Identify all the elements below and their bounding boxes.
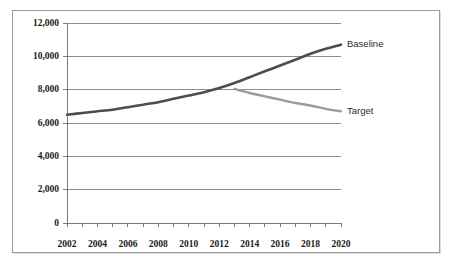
chart-figure: 02,0004,0006,0008,00010,00012,000 200220… xyxy=(0,0,454,273)
x-axis-label-2012: 2012 xyxy=(210,239,229,249)
series-label-baseline: Baseline xyxy=(347,38,383,49)
y-axis-label-8000: 8,000 xyxy=(38,84,60,94)
y-axis-tick-labels-group: 02,0004,0006,0008,00010,00012,000 xyxy=(33,18,59,228)
series-label-target: Target xyxy=(347,105,374,116)
x-axis-label-2006: 2006 xyxy=(118,239,137,249)
x-axis-label-2002: 2002 xyxy=(58,239,77,249)
line-chart-canvas: 02,0004,0006,0008,00010,00012,000 200220… xyxy=(13,11,439,252)
series-lines-group xyxy=(67,45,341,115)
x-axis-label-2004: 2004 xyxy=(88,239,107,249)
series-label-annotations-group: BaselineTarget xyxy=(347,38,383,116)
x-axis-label-2014: 2014 xyxy=(240,239,259,249)
chart-frame: 02,0004,0006,0008,00010,00012,000 200220… xyxy=(12,10,440,253)
y-axis-label-4000: 4,000 xyxy=(38,151,60,161)
x-axis-label-2008: 2008 xyxy=(149,239,168,249)
y-axis-label-12000: 12,000 xyxy=(33,18,59,28)
y-axis-label-0: 0 xyxy=(54,218,59,228)
y-axis-label-6000: 6,000 xyxy=(38,118,60,128)
y-axis-label-2000: 2,000 xyxy=(38,184,60,194)
x-axis-label-2020: 2020 xyxy=(332,239,351,249)
x-axis-label-2010: 2010 xyxy=(179,239,198,249)
x-axis-label-2016: 2016 xyxy=(271,239,290,249)
x-tick-marks-group xyxy=(63,23,341,227)
x-axis-tick-labels-group: 2002200420062008201020122014201620182020 xyxy=(58,239,351,249)
y-axis-label-10000: 10,000 xyxy=(33,51,59,61)
gridlines-group xyxy=(67,23,341,223)
series-line-target xyxy=(234,89,341,112)
x-axis-label-2018: 2018 xyxy=(301,239,320,249)
